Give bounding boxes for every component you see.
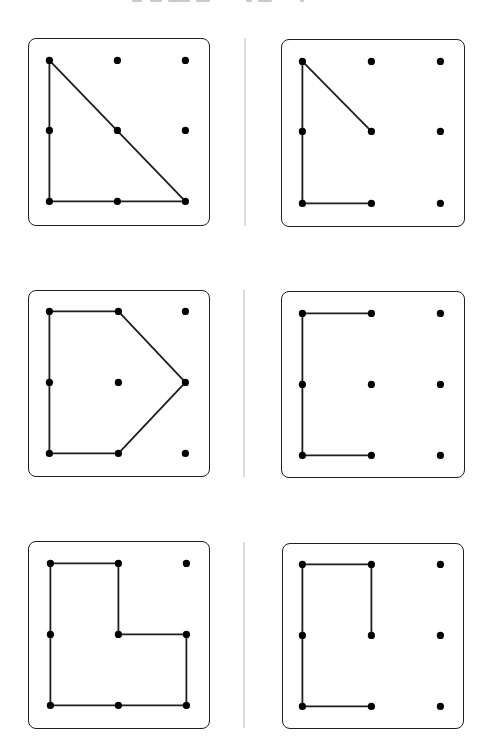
geoboard-drawing xyxy=(29,39,211,227)
geoboard-panel-5 xyxy=(28,541,210,729)
peg-dot xyxy=(115,450,122,457)
peg-dot xyxy=(182,379,189,386)
title-glyph-fragment xyxy=(132,0,142,2)
geoboard-drawing xyxy=(283,544,465,730)
peg-dot xyxy=(46,308,53,315)
peg-dot xyxy=(183,702,190,709)
geoboard-panel-6 xyxy=(282,543,464,729)
peg-dot xyxy=(115,702,122,709)
peg-dot xyxy=(299,128,306,135)
shape-outline-open-bracket xyxy=(302,313,371,455)
peg-dot xyxy=(114,127,121,134)
peg-dot xyxy=(437,310,444,317)
peg-dot xyxy=(46,127,53,134)
geoboard-drawing xyxy=(282,292,466,479)
peg-dot xyxy=(368,561,375,568)
column-separator xyxy=(243,542,245,728)
peg-dot xyxy=(183,560,190,567)
peg-dot xyxy=(437,452,444,459)
peg-dot xyxy=(299,561,306,568)
title-glyph-fragment xyxy=(258,0,272,2)
peg-dot xyxy=(299,310,306,317)
title-glyph-fragment xyxy=(300,0,304,2)
clipped-figure-title xyxy=(0,0,493,6)
peg-dot xyxy=(299,703,306,710)
shape-outline-open-polyline xyxy=(302,61,371,203)
peg-dot xyxy=(368,632,375,639)
peg-dot xyxy=(437,561,444,568)
peg-dot xyxy=(368,128,375,135)
peg-dot xyxy=(368,310,375,317)
peg-dot xyxy=(47,560,54,567)
peg-dot xyxy=(46,450,53,457)
peg-dot xyxy=(182,127,189,134)
column-separator xyxy=(243,290,245,477)
geoboard-panel-2 xyxy=(281,39,465,227)
peg-dot xyxy=(368,381,375,388)
peg-dot xyxy=(182,450,189,457)
geoboard-panel-1 xyxy=(28,38,210,226)
geoboard-drawing xyxy=(29,291,211,478)
peg-dot xyxy=(182,57,189,64)
shape-outline-open-polyline xyxy=(302,564,371,706)
peg-dot xyxy=(368,200,375,207)
peg-dot xyxy=(299,58,306,65)
peg-dot xyxy=(114,198,121,205)
peg-dot xyxy=(437,128,444,135)
peg-dot xyxy=(299,632,306,639)
peg-dot xyxy=(437,632,444,639)
peg-dot xyxy=(115,560,122,567)
peg-dot xyxy=(46,379,53,386)
peg-dot xyxy=(182,198,189,205)
peg-dot xyxy=(182,308,189,315)
peg-dot xyxy=(437,58,444,65)
title-glyph-fragment xyxy=(150,0,162,2)
peg-dot xyxy=(47,631,54,638)
peg-dot xyxy=(368,58,375,65)
peg-dot xyxy=(47,702,54,709)
title-glyph-fragment xyxy=(246,0,252,2)
peg-dot xyxy=(437,200,444,207)
peg-dot xyxy=(183,631,190,638)
peg-dot xyxy=(368,452,375,459)
geoboard-panel-3 xyxy=(28,290,210,477)
geoboard-panel-4 xyxy=(281,291,465,478)
peg-dot xyxy=(437,703,444,710)
peg-dot xyxy=(299,381,306,388)
peg-dot xyxy=(115,308,122,315)
peg-dot xyxy=(46,57,53,64)
peg-dot xyxy=(115,631,122,638)
peg-dot xyxy=(299,200,306,207)
geoboard-drawing xyxy=(29,542,211,730)
column-separator xyxy=(244,38,246,226)
title-glyph-fragment xyxy=(196,0,210,2)
peg-dot xyxy=(368,703,375,710)
peg-dot xyxy=(114,57,121,64)
peg-dot xyxy=(437,381,444,388)
geoboard-drawing xyxy=(282,40,466,228)
title-glyph-fragment xyxy=(168,0,190,2)
peg-dot xyxy=(115,379,122,386)
peg-dot xyxy=(299,452,306,459)
peg-dot xyxy=(46,198,53,205)
